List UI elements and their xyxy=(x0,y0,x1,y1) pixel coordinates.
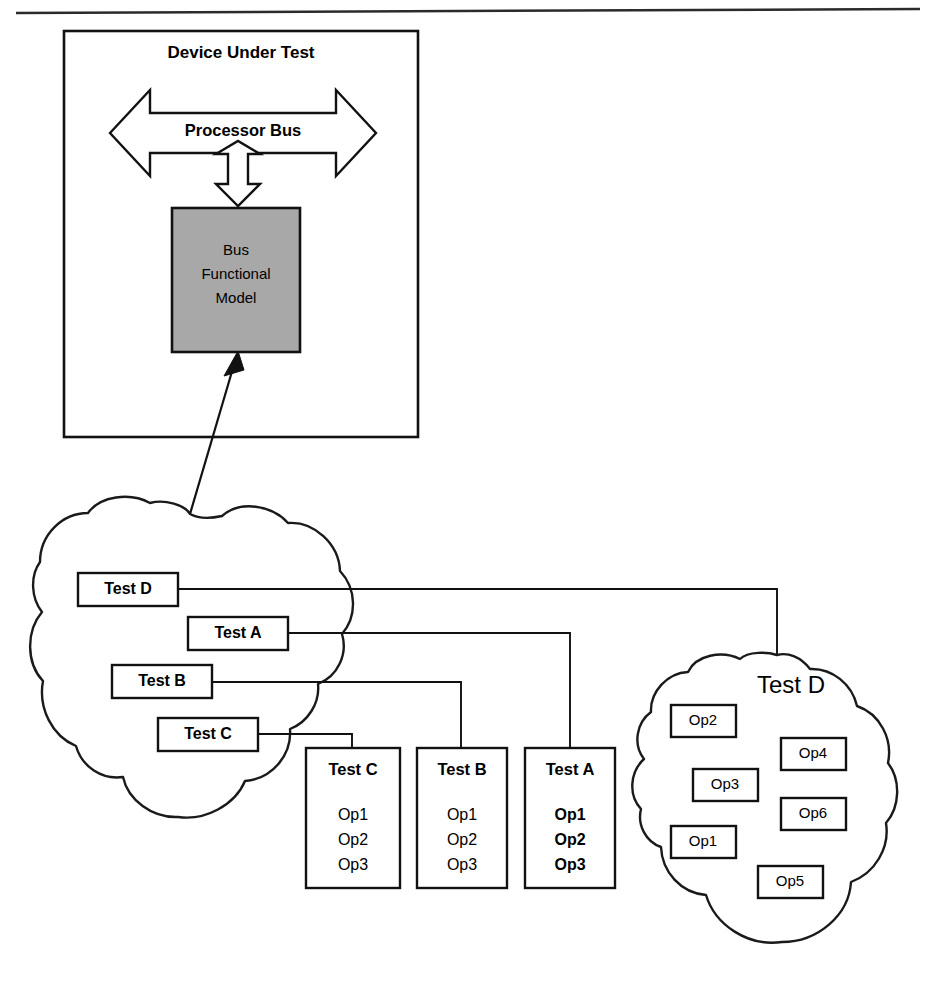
bfm-line-2: Functional xyxy=(201,265,270,282)
cloud-label-test-a-text: Test A xyxy=(214,624,262,641)
cloud-to-bfm-arrowhead xyxy=(224,351,244,376)
detail-box-test-b-title: Test B xyxy=(437,760,486,778)
top-rule xyxy=(16,9,920,13)
diagram-svg: Device Under Test Processor Bus Bus Func… xyxy=(0,0,936,1000)
detail-box-test-c-op-3: Op3 xyxy=(338,856,368,873)
bfm-line-3: Model xyxy=(216,289,257,306)
cloud-to-bfm-line xyxy=(190,368,233,514)
cloud-label-test-d-text: Test D xyxy=(104,580,152,597)
detail-box-test-a-op-1: Op1 xyxy=(554,806,585,823)
test-d-cloud-title: Test D xyxy=(757,671,825,698)
processor-bus-label: Processor Bus xyxy=(185,121,301,139)
test-d-op2-text: Op2 xyxy=(689,711,717,728)
test-d-op4-text: Op4 xyxy=(799,744,827,761)
detail-box-test-c-op-2: Op2 xyxy=(338,831,368,848)
test-d-op1-text: Op1 xyxy=(689,832,717,849)
cloud-label-test-c-text: Test C xyxy=(184,725,232,742)
detail-box-test-c-title: Test C xyxy=(328,760,377,778)
detail-box-test-a-title: Test A xyxy=(546,760,595,778)
diagram-canvas: Device Under Test Processor Bus Bus Func… xyxy=(0,0,936,1000)
test-d-op5-text: Op5 xyxy=(776,872,804,889)
detail-box-test-a-op-3: Op3 xyxy=(554,856,585,873)
detail-box-test-a-op-2: Op2 xyxy=(554,831,585,848)
detail-box-test-b-op-2: Op2 xyxy=(447,831,477,848)
bus-to-bfm-arrow xyxy=(216,141,260,206)
test-d-op6-text: Op6 xyxy=(799,804,827,821)
detail-box-test-c-op-1: Op1 xyxy=(338,806,368,823)
detail-box-test-b-op-1: Op1 xyxy=(447,806,477,823)
cloud-label-test-b-text: Test B xyxy=(138,672,186,689)
test-d-op3-text: Op3 xyxy=(711,775,739,792)
bfm-line-1: Bus xyxy=(223,241,249,258)
main-test-cloud xyxy=(30,497,353,818)
detail-box-test-b-op-3: Op3 xyxy=(447,856,477,873)
device-under-test-title: Device Under Test xyxy=(167,43,314,62)
